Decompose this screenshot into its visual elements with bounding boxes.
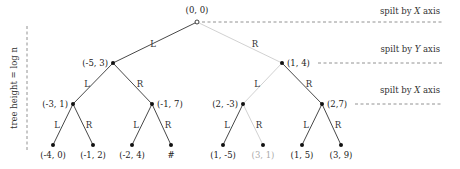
node-dot: [111, 61, 115, 65]
edge-label-left: L: [224, 120, 230, 130]
edge-label-left: L: [84, 79, 90, 89]
node-label: (0, 0): [186, 5, 209, 15]
node-label: (-2, 4): [119, 150, 145, 160]
edge-label-right: R: [86, 120, 93, 130]
edge-label-right: R: [252, 39, 259, 49]
edge-label-right: R: [165, 120, 172, 130]
edge-label-left: L: [303, 120, 309, 130]
node-dot: [280, 61, 284, 65]
node-label: (3, 1): [252, 150, 275, 160]
edge-label-left: L: [150, 39, 156, 49]
node-label: #: [167, 150, 174, 160]
node-label: (-1, 7): [157, 99, 183, 109]
edge-label-right: R: [335, 120, 342, 130]
node-dot: [241, 102, 245, 106]
level-0-split-label: spilt by X axis: [380, 6, 440, 16]
root-node-dot: [195, 20, 199, 24]
node-label: (1, 4): [287, 58, 310, 68]
node-dot: [51, 143, 55, 147]
node-dot: [300, 143, 304, 147]
node-label: (-4, 0): [40, 150, 66, 160]
level-1-split-label: spilt by Y axis: [380, 44, 440, 54]
tree-height-indicator: tree height = log n: [9, 26, 27, 150]
kd-tree-svg: tree height = log n spilt by X axisspilt…: [0, 0, 460, 169]
edge-label-right: R: [306, 79, 313, 89]
node-label: (2,7): [327, 99, 347, 109]
edge-n0-n2: [197, 22, 282, 63]
edge-label-left: L: [254, 79, 260, 89]
node-dot: [130, 143, 134, 147]
edge-label-left: L: [54, 120, 60, 130]
node-dot: [221, 143, 225, 147]
node-label: (1, -5): [210, 150, 236, 160]
node-label: (1, 5): [291, 150, 314, 160]
edge-labels: LRLRLRLRLRLRLR: [54, 39, 342, 130]
node-dot: [320, 102, 324, 106]
node-dot: [261, 143, 265, 147]
tree-height-label: tree height = log n: [9, 47, 19, 129]
node-dot: [150, 102, 154, 106]
node-dot: [339, 143, 343, 147]
node-dot: [71, 102, 75, 106]
edge-n1-n4: [113, 63, 152, 104]
edge-label-left: L: [133, 120, 139, 130]
kd-tree-diagram: tree height = log n spilt by X axisspilt…: [0, 0, 460, 169]
node-label: (3, 9): [330, 150, 353, 160]
tree-edges: [53, 22, 341, 145]
edge-n2-n5: [243, 63, 282, 104]
tree-nodes: [51, 20, 343, 147]
edge-label-right: R: [137, 79, 144, 89]
node-dot: [169, 143, 173, 147]
node-label: (-3, 1): [42, 99, 68, 109]
edge-n1-n3: [73, 63, 113, 104]
edge-n2-n6: [282, 63, 322, 104]
node-label: (2, -3): [212, 99, 238, 109]
level-2-split-label: spilt by X axis: [380, 85, 440, 95]
node-label: (-5, 3): [82, 58, 108, 68]
node-label: (-1, 2): [80, 150, 106, 160]
node-dot: [91, 143, 95, 147]
edge-label-right: R: [256, 120, 263, 130]
level-split-guides: spilt by X axisspilt by Y axisspilt by X…: [202, 6, 443, 104]
